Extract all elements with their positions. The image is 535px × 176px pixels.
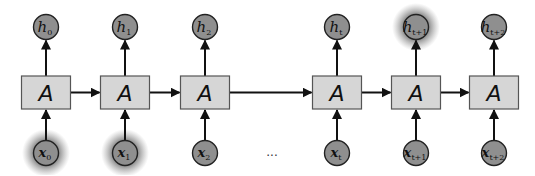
ellipsis: ... [266, 145, 277, 159]
time-step-5: Aht+2xt+2 [470, 15, 519, 166]
rnn-cell-label: A [406, 81, 423, 106]
time-step-4: Aht+1xt+1 [392, 3, 441, 166]
time-step-2: Ah2x2 [181, 15, 230, 166]
rnn-cell-label: A [36, 81, 53, 106]
rnn-cell-label: A [195, 81, 212, 106]
time-step-3: Ahtxt [313, 15, 362, 166]
rnn-cell-label: A [327, 81, 344, 106]
rnn-cell-label: A [115, 81, 132, 106]
rnn-cell-label: A [484, 81, 501, 106]
rnn-unrolled-diagram: Ah0x0Ah1x1Ah2x2AhtxtAht+1xt+1Aht+2xt+2..… [0, 0, 535, 175]
time-step-1: Ah1x1 [101, 15, 150, 176]
time-step-0: Ah0x0 [22, 15, 71, 176]
